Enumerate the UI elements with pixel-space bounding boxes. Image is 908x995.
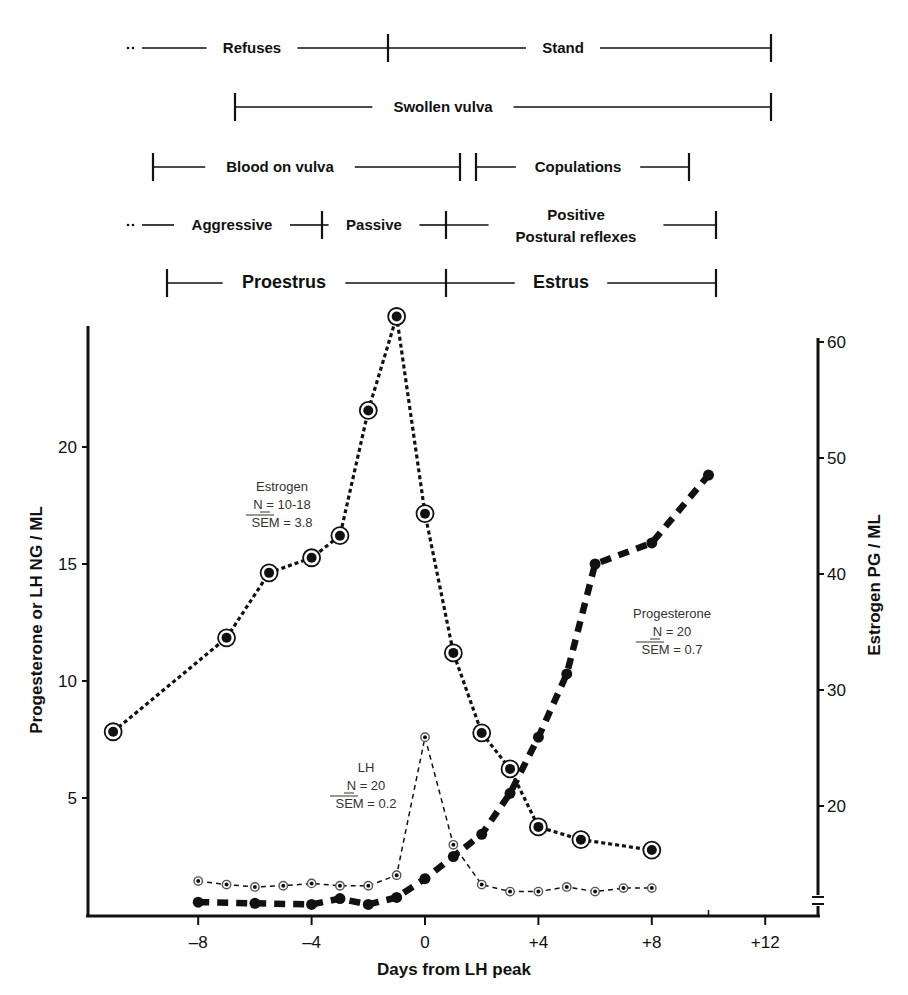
lh-point-center	[281, 884, 285, 888]
estrogen-point-center	[363, 405, 373, 415]
progesterone-point	[561, 668, 572, 679]
progesterone-point	[703, 470, 714, 481]
estrogen-point-center	[533, 822, 543, 832]
estrogen-point-center	[576, 835, 586, 845]
timeline-label: Swollen vulva	[393, 98, 493, 115]
right-y-axis-title: Estrogen PG / ML	[865, 514, 884, 656]
progesterone-point	[363, 899, 374, 910]
lh-point-center	[225, 883, 229, 887]
estrogen-point-center	[448, 648, 458, 658]
x-tick-label: +12	[751, 933, 780, 952]
timeline-label: Stand	[542, 39, 584, 56]
estrus-hormone-chart: RefusesStandSwollen vulvaBlood on vulvaC…	[0, 0, 908, 995]
y-tick-label-right: 30	[827, 681, 846, 700]
timeline-label: Passive	[346, 216, 402, 233]
lh-point-center	[650, 886, 654, 890]
lh-point-center	[338, 884, 342, 888]
timeline-label: Blood on vulva	[226, 158, 334, 175]
lh-line	[198, 737, 652, 891]
series-annotation: N = 20	[653, 624, 692, 639]
lh-point-center	[423, 735, 427, 739]
series-annotation: Progesterone	[633, 606, 711, 621]
estrogen-point-center	[222, 633, 232, 643]
progesterone-point	[476, 829, 487, 840]
progesterone-point	[533, 732, 544, 743]
progesterone-point	[193, 897, 204, 908]
lh-point-center	[366, 884, 370, 888]
progesterone-point	[448, 851, 459, 862]
lh-point-center	[395, 873, 399, 877]
x-tick-label: +4	[529, 933, 548, 952]
x-tick-label: +8	[642, 933, 661, 952]
progesterone-point	[590, 559, 601, 570]
y-tick-label-right: 20	[827, 797, 846, 816]
behavior-timeline: RefusesStandSwollen vulvaBlood on vulvaC…	[127, 34, 771, 297]
lh-point-center	[593, 890, 597, 894]
continuation-dot	[132, 224, 135, 227]
progesterone-point	[646, 537, 657, 548]
estrogen-point-center	[335, 531, 345, 541]
x-tick-label: –8	[189, 933, 208, 952]
lh-point-center	[451, 843, 455, 847]
estrogen-point-center	[307, 553, 317, 563]
timeline-label: Postural reflexes	[516, 228, 637, 245]
series-annotation: SEM = 0.2	[335, 796, 396, 811]
series-annotation: LH	[358, 760, 375, 775]
lh-point-center	[508, 890, 512, 894]
timeline-label: Aggressive	[192, 216, 273, 233]
y-tick-label-right: 40	[827, 565, 846, 584]
continuation-dot	[127, 224, 130, 227]
lh-point-center	[480, 883, 484, 887]
x-tick-label: –4	[302, 933, 321, 952]
estrogen-point-center	[647, 845, 657, 855]
x-tick-label: 0	[420, 933, 429, 952]
progesterone-point	[391, 892, 402, 903]
y-tick-label-left: 10	[58, 672, 77, 691]
data-series	[105, 308, 714, 910]
timeline-label: Copulations	[535, 158, 622, 175]
lh-point-center	[565, 885, 569, 889]
progesterone-point	[306, 899, 317, 910]
y-tick-label-right: 60	[827, 333, 846, 352]
progesterone-point	[420, 873, 431, 884]
progesterone-point	[505, 788, 516, 799]
estrogen-point-center	[392, 311, 402, 321]
continuation-dot	[132, 47, 135, 50]
lh-point-center	[621, 886, 625, 890]
y-tick-label-left: 5	[68, 789, 77, 808]
continuation-dot	[127, 47, 130, 50]
series-annotations: EstrogenN = 10-18SEM = 3.8ProgesteroneN …	[246, 479, 711, 811]
progesterone-point	[334, 893, 345, 904]
left-y-axis-title: Progesterone or LH NG / ML	[27, 506, 46, 734]
progesterone-point	[249, 898, 260, 909]
series-annotation: N = 10-18	[253, 497, 310, 512]
series-annotation: SEM = 3.8	[251, 515, 312, 530]
timeline-label: Proestrus	[242, 272, 326, 292]
estrogen-line	[113, 316, 652, 850]
series-annotation: Estrogen	[256, 479, 308, 494]
estrogen-point-center	[264, 568, 274, 578]
x-axis-title: Days from LH peak	[377, 960, 532, 979]
timeline-label: Positive	[547, 206, 605, 223]
estrogen-point-center	[477, 728, 487, 738]
timeline-label: Estrus	[533, 272, 589, 292]
y-tick-label-left: 20	[58, 438, 77, 457]
estrogen-point-center	[505, 764, 515, 774]
estrogen-point-center	[420, 509, 430, 519]
series-annotation: SEM = 0.7	[641, 642, 702, 657]
series-annotation: N = 20	[347, 778, 386, 793]
lh-point-center	[253, 885, 257, 889]
y-tick-label-right: 50	[827, 449, 846, 468]
timeline-label: Refuses	[223, 39, 281, 56]
estrogen-point-center	[108, 727, 118, 737]
y-tick-label-left: 15	[58, 555, 77, 574]
lh-point-center	[196, 879, 200, 883]
lh-point-center	[536, 890, 540, 894]
lh-point-center	[310, 881, 314, 885]
